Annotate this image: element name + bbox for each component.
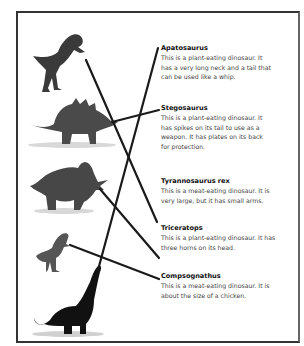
- entry-compsognathus: Compsognathus This is a meat-eating dino…: [161, 272, 301, 300]
- entry-line: very large, but it has small arms.: [161, 196, 301, 206]
- entry-line: This is a plant-eating dinosaur. It: [161, 113, 301, 123]
- entry-title: Triceratops: [161, 224, 301, 233]
- entry-line: weapon. It has plates on its back: [161, 132, 301, 142]
- entry-line: has a very long neck and a tail that: [161, 63, 301, 73]
- entry-line: This is a plant-eating dinosaur. It: [161, 53, 301, 63]
- entry-line: three horns on its head.: [161, 243, 301, 253]
- entry-line: This is a meat-eating dinosaur. It is: [161, 281, 301, 291]
- entry-line: This is a plant-eating dinosaur. It has: [161, 233, 301, 243]
- entry-triceratops: Triceratops This is a plant-eating dinos…: [161, 224, 301, 252]
- entry-line: has spikes on its tail to use as a: [161, 123, 301, 133]
- entry-line: about the size of a chicken.: [161, 291, 301, 301]
- entry-title: Tyrannosaurus rex: [161, 177, 301, 186]
- entry-line: This is a meat-eating dinosaur. It is: [161, 186, 301, 196]
- entry-line: for protection.: [161, 142, 301, 152]
- entry-title: Stegosaurus: [161, 104, 301, 113]
- entry-line: can be used like a whip.: [161, 72, 301, 82]
- entry-tyrannosaurus: Tyrannosaurus rex This is a meat-eating …: [161, 177, 301, 205]
- entry-apatosaurus: Apatosaurus This is a plant-eating dinos…: [161, 44, 301, 82]
- entry-title: Compsognathus: [161, 272, 301, 281]
- descriptions: Apatosaurus This is a plant-eating dinos…: [0, 0, 304, 346]
- entry-title: Apatosaurus: [161, 44, 301, 53]
- entry-stegosaurus: Stegosaurus This is a plant-eating dinos…: [161, 104, 301, 151]
